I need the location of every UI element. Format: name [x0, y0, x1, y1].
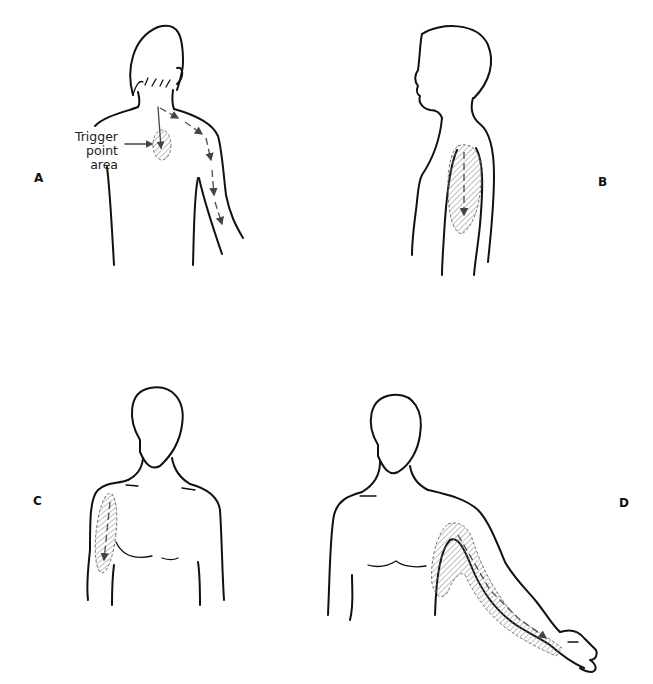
panel-label-c: C [33, 494, 42, 508]
panel-c: C [0, 370, 320, 610]
abducted-arm-figure-drawing [300, 370, 653, 684]
callout-line-2: area [48, 158, 118, 172]
trigger-point-area [153, 130, 171, 160]
panel-d: D [300, 370, 653, 684]
panel-a: Trigger point area A [0, 0, 330, 290]
referred-pain-area-anterior-arm [92, 492, 120, 574]
lateral-figure-drawing [360, 0, 653, 290]
panel-label-b: B [598, 175, 607, 189]
trigger-point-callout: Trigger point area [48, 130, 118, 172]
panel-b: B [360, 0, 653, 290]
anterior-figure-drawing [0, 370, 320, 610]
panel-label-a: A [34, 171, 43, 185]
panel-label-d: D [619, 496, 629, 510]
callout-line-1: Trigger point [48, 130, 118, 158]
